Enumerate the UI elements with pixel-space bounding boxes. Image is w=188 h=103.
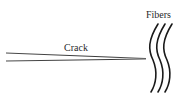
crack-shape (6, 53, 146, 61)
fibers-shape (150, 24, 172, 92)
crack-label: Crack (64, 43, 88, 53)
fiber-1 (150, 24, 158, 92)
fiber-3 (164, 24, 172, 92)
fibers-label: Fibers (146, 10, 171, 20)
fiber-2 (157, 24, 165, 92)
